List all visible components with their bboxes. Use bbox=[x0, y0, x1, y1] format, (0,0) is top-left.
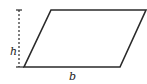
parallelogram-shape bbox=[24, 10, 146, 67]
height-label: h bbox=[10, 45, 17, 58]
base-label: b bbox=[69, 70, 76, 83]
parallelogram-diagram: h b bbox=[0, 0, 147, 84]
